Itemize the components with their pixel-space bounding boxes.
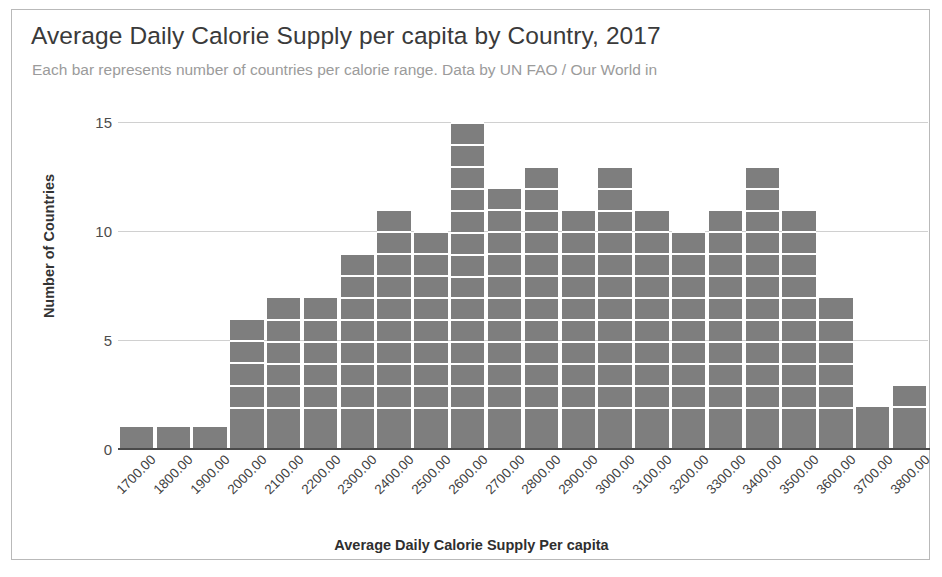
bar[interactable] xyxy=(893,384,926,449)
bar[interactable] xyxy=(157,427,190,449)
bar-segment xyxy=(746,429,779,449)
bar-segment xyxy=(230,407,263,429)
bar[interactable] xyxy=(819,296,852,449)
bar-segment xyxy=(598,297,631,319)
x-axis-tick-label: 2600.00 xyxy=(445,452,490,497)
bar-segment xyxy=(488,209,521,231)
bar-segment xyxy=(819,363,852,385)
bar-segment xyxy=(562,297,595,319)
bar[interactable] xyxy=(856,405,889,449)
bar-segment xyxy=(451,166,484,188)
bar-segment xyxy=(782,209,815,231)
bar[interactable] xyxy=(782,209,815,449)
bar-segment xyxy=(267,385,300,407)
bar-segment xyxy=(451,407,484,429)
bar-segment xyxy=(451,319,484,341)
bar-segment xyxy=(746,363,779,385)
bar-segment xyxy=(672,319,705,341)
bar-segment xyxy=(635,341,668,363)
bar-segment xyxy=(672,363,705,385)
y-axis-title: Number of Countries xyxy=(41,141,57,351)
bar[interactable] xyxy=(525,166,558,449)
bar[interactable] xyxy=(120,427,153,449)
bar-segment xyxy=(672,341,705,363)
bar[interactable] xyxy=(377,209,410,449)
bar[interactable] xyxy=(230,318,263,449)
bar-segment xyxy=(893,384,926,406)
bar-segment xyxy=(341,429,374,449)
bar-segment xyxy=(267,341,300,363)
bar-segment xyxy=(267,429,300,449)
bar[interactable] xyxy=(562,209,595,449)
bar-segment xyxy=(377,429,410,449)
bar-segment xyxy=(488,297,521,319)
bar-segment xyxy=(746,407,779,429)
bar-segment xyxy=(598,429,631,449)
bar[interactable] xyxy=(304,296,337,449)
bar-segment xyxy=(746,385,779,407)
bar-segment xyxy=(709,385,742,407)
bar-segment xyxy=(341,253,374,275)
x-axis-title: Average Daily Calorie Supply Per capita xyxy=(12,537,931,553)
bar-segment xyxy=(782,407,815,429)
chart-subtitle: Each bar represents number of countries … xyxy=(32,61,657,79)
bar-segment xyxy=(230,429,263,449)
x-axis-tick-label: 3200.00 xyxy=(666,452,711,497)
bar-segment xyxy=(856,428,889,449)
bar-segment xyxy=(488,385,521,407)
bar-segment xyxy=(377,363,410,385)
x-axis-tick-label: 2800.00 xyxy=(519,452,564,497)
bar[interactable] xyxy=(451,122,484,449)
bar-segment xyxy=(598,385,631,407)
bar-segment xyxy=(598,210,631,232)
bar-segment xyxy=(598,166,631,188)
bar[interactable] xyxy=(488,187,521,449)
bar[interactable] xyxy=(672,231,705,449)
bar[interactable] xyxy=(709,209,742,449)
bar-segment xyxy=(746,253,779,275)
bar-segment xyxy=(672,429,705,449)
bar[interactable] xyxy=(414,231,447,449)
bar[interactable] xyxy=(635,209,668,449)
bar-segment xyxy=(746,319,779,341)
bar-segment xyxy=(598,188,631,210)
bar-segment xyxy=(341,319,374,341)
bar-segment xyxy=(377,209,410,231)
bar-segment xyxy=(488,407,521,429)
bar-segment xyxy=(451,122,484,144)
bar-segment xyxy=(672,253,705,275)
bar-segment xyxy=(893,406,926,428)
x-axis-tick-label: 3400.00 xyxy=(740,452,785,497)
bar-segment xyxy=(782,231,815,253)
bar[interactable] xyxy=(746,166,779,449)
x-axis-tick-label: 2900.00 xyxy=(556,452,601,497)
bar-segment xyxy=(414,231,447,253)
bar-segment xyxy=(230,340,263,362)
x-axis-tick-label: 1900.00 xyxy=(188,452,233,497)
bar-segment xyxy=(451,144,484,166)
bar-segment xyxy=(488,231,521,253)
bar-segment xyxy=(304,296,337,318)
bar-segment xyxy=(782,319,815,341)
bar-segment xyxy=(377,275,410,297)
x-axis-tick-label: 3300.00 xyxy=(703,452,748,497)
y-axis-tick-label: 5 xyxy=(104,332,112,349)
bar-segment xyxy=(635,429,668,449)
bar[interactable] xyxy=(193,427,226,449)
bar-segment xyxy=(782,341,815,363)
bar-segment xyxy=(451,363,484,385)
x-axis-tick-label: 3500.00 xyxy=(777,452,822,497)
bar-segment xyxy=(488,429,521,449)
bar-segment xyxy=(672,385,705,407)
bar-segment xyxy=(856,405,889,428)
bar-segment xyxy=(451,341,484,363)
bar[interactable] xyxy=(341,253,374,449)
bar-segment xyxy=(488,187,521,209)
x-axis-tick-label: 2500.00 xyxy=(408,452,453,497)
y-axis-tick-labels: 051015 xyxy=(72,122,112,449)
bar-segment xyxy=(525,363,558,385)
bar-segment xyxy=(598,319,631,341)
bar[interactable] xyxy=(267,296,300,449)
bar[interactable] xyxy=(598,166,631,449)
bar-segment xyxy=(709,319,742,341)
